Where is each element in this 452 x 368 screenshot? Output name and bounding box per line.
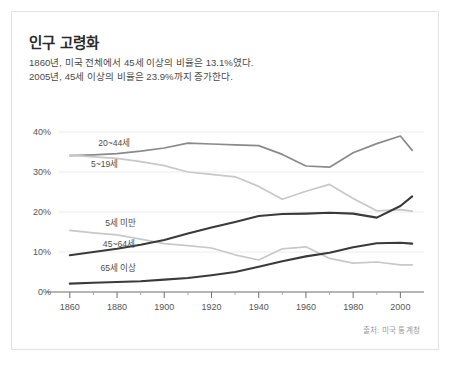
- data-series: [70, 136, 412, 284]
- x-axis-tick-label: 1900: [154, 302, 174, 312]
- source-note: 출처: 미국 통계청: [363, 324, 420, 335]
- y-axis-labels: 0%10%20%30%40%: [33, 127, 51, 297]
- x-axis-tick-label: 1920: [201, 302, 221, 312]
- chart-card: 인구 고령화 1860년, 미국 전체에서 45세 이상의 비율은 13.1%였…: [11, 11, 439, 350]
- series-labels: 20~44세5~19세5세 미만45~64세65세 이상: [91, 138, 136, 273]
- y-axis-tick-label: 40%: [33, 127, 51, 137]
- series-line: [70, 155, 412, 211]
- x-axis-tick-label: 1940: [249, 302, 269, 312]
- line-chart: 0%10%20%30%40% 1860188019001920194019601…: [12, 12, 440, 351]
- y-axis-tick-label: 20%: [33, 207, 51, 217]
- x-axis-tick-label: 1860: [60, 302, 80, 312]
- x-axis-tick-label: 1960: [296, 302, 316, 312]
- y-axis-tick-label: 30%: [33, 167, 51, 177]
- x-axis-labels: 18601880190019201940196019802000: [60, 302, 411, 312]
- x-axis-tick-label: 2000: [390, 302, 410, 312]
- series-label: 45~64세: [103, 239, 135, 249]
- x-axis: [46, 292, 424, 298]
- series-label: 65세 이상: [101, 263, 137, 273]
- series-label: 5세 미만: [105, 218, 136, 228]
- x-axis-tick-label: 1980: [343, 302, 363, 312]
- series-label: 20~44세: [98, 138, 130, 148]
- y-axis-tick-label: 10%: [33, 247, 51, 257]
- x-axis-tick-label: 1880: [107, 302, 127, 312]
- series-label: 5~19세: [91, 159, 118, 169]
